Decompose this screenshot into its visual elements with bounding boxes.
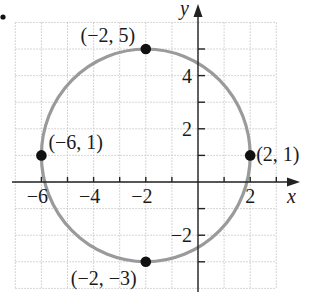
- grid-lines: [15, 22, 276, 288]
- point-label: (−2, −3): [71, 267, 137, 290]
- x-tick-label: 2: [245, 185, 255, 207]
- x-axis-label: x: [286, 185, 296, 207]
- circle-graph-figure: −6−4−2242−2 x y (−2, 5)(−6, 1)(2, 1)(−2,…: [0, 0, 312, 293]
- y-tick-label: 4: [182, 65, 192, 87]
- point-marker: [141, 44, 152, 55]
- point-label: (2, 1): [256, 143, 299, 166]
- x-tick-label: −2: [131, 185, 152, 207]
- x-tick-label: −4: [79, 185, 100, 207]
- bullet-marker: [0, 14, 5, 19]
- point-marker: [245, 150, 256, 161]
- y-axis-arrow-icon: [194, 4, 203, 17]
- x-tick-label: −6: [27, 185, 48, 207]
- coordinate-plane: −6−4−2242−2 x y (−2, 5)(−6, 1)(2, 1)(−2,…: [0, 0, 312, 293]
- y-tick-label: 2: [182, 118, 192, 140]
- point-label: (−2, 5): [80, 24, 135, 47]
- point-label: (−6, 1): [48, 131, 103, 154]
- y-axis-label: y: [178, 0, 189, 20]
- y-tick-label: −2: [171, 224, 192, 246]
- labeled-point: (−6, 1): [36, 131, 103, 160]
- labeled-point: (2, 1): [245, 143, 300, 166]
- point-marker: [141, 257, 152, 268]
- point-marker: [36, 150, 47, 161]
- labeled-points: (−2, 5)(−6, 1)(2, 1)(−2, −3): [36, 24, 299, 290]
